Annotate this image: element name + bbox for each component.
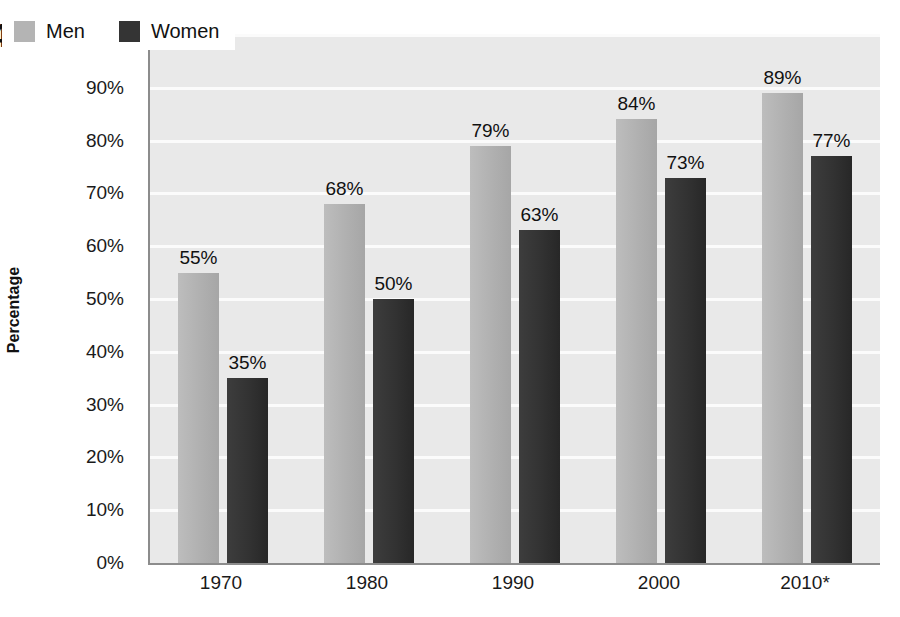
- bar-women-2000[interactable]: 73%: [665, 178, 706, 563]
- bar-value-label: 55%: [179, 247, 217, 269]
- bar-value-label: 84%: [617, 93, 655, 115]
- bar-women-2010[interactable]: 77%: [811, 156, 852, 563]
- y-axis-tick-label: 40%: [86, 341, 124, 363]
- bar-men-1990[interactable]: 79%: [470, 146, 511, 563]
- bar-group: 79%63%: [470, 35, 560, 563]
- plot-area: 55%35%68%50%79%63%84%73%89%77%: [148, 35, 880, 565]
- bar-group: 84%73%: [616, 35, 706, 563]
- bar-value-label: 89%: [763, 67, 801, 89]
- chart-legend: MenWomen: [2, 13, 235, 50]
- bar-women-1980[interactable]: 50%: [373, 299, 414, 563]
- x-axis-tick-label: 2010*: [780, 572, 830, 594]
- y-axis-tick-label: 60%: [86, 235, 124, 257]
- bar-value-label: 50%: [374, 273, 412, 295]
- y-axis-tick-labels: 0%10%20%30%40%50%60%70%80%90%100%: [48, 35, 134, 563]
- bar-value-label: 35%: [228, 352, 266, 374]
- x-axis-tick-label: 2000: [638, 572, 680, 594]
- bar-value-label: 63%: [520, 204, 558, 226]
- legend-label: Women: [151, 20, 220, 43]
- y-axis-tick-label: 20%: [86, 446, 124, 468]
- bar-men-1970[interactable]: 55%: [178, 273, 219, 563]
- bar-women-1990[interactable]: 63%: [519, 230, 560, 563]
- bar-value-label: 68%: [325, 178, 363, 200]
- bar-men-1980[interactable]: 68%: [324, 204, 365, 563]
- x-axis-tick-labels: 19701980199020002010*: [148, 572, 878, 606]
- bars-layer: 55%35%68%50%79%63%84%73%89%77%: [150, 35, 880, 563]
- y-axis-tick-label: 30%: [86, 394, 124, 416]
- bar-value-label: 77%: [812, 130, 850, 152]
- y-axis-tick-label: 10%: [86, 499, 124, 521]
- x-axis-tick-label: 1980: [346, 572, 388, 594]
- x-axis-tick-label: 1970: [200, 572, 242, 594]
- legend-item-men[interactable]: Men: [14, 20, 85, 43]
- bar-value-label: 73%: [666, 152, 704, 174]
- legend-label: Men: [46, 20, 85, 43]
- bar-women-1970[interactable]: 35%: [227, 378, 268, 563]
- bar-value-label: 79%: [471, 120, 509, 142]
- bar-men-2000[interactable]: 84%: [616, 119, 657, 563]
- bar-men-2010[interactable]: 89%: [762, 93, 803, 563]
- bar-chart: 4 Percentage 0%10%20%30%40%50%60%70%80%9…: [0, 0, 900, 617]
- x-axis-tick-label: 1990: [492, 572, 534, 594]
- y-axis-tick-label: 50%: [86, 288, 124, 310]
- y-axis-tick-label: 0%: [97, 552, 124, 574]
- men-color-swatch-icon: [14, 21, 35, 42]
- y-axis-tick-label: 90%: [86, 77, 124, 99]
- legend-item-women[interactable]: Women: [119, 20, 220, 43]
- bar-group: 55%35%: [178, 35, 268, 563]
- y-axis-title: Percentage: [5, 267, 23, 353]
- y-axis-tick-label: 70%: [86, 182, 124, 204]
- bar-group: 89%77%: [762, 35, 852, 563]
- y-axis-tick-label: 80%: [86, 130, 124, 152]
- women-color-swatch-icon: [119, 21, 140, 42]
- bar-group: 68%50%: [324, 35, 414, 563]
